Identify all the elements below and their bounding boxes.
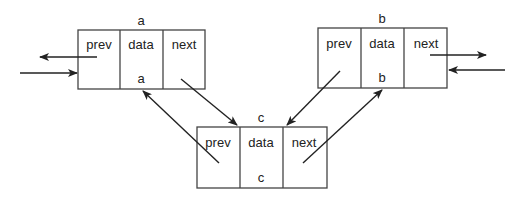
node-b-prev-label: prev <box>326 36 352 51</box>
node-c: c prev data next c <box>197 110 327 188</box>
node-b-data-label: data <box>369 36 395 51</box>
node-c-name: c <box>258 110 265 125</box>
node-b-next-label: next <box>414 36 439 51</box>
node-c-value: c <box>258 170 265 185</box>
node-a-next-label: next <box>172 37 197 52</box>
node-a-data-label: data <box>128 37 154 52</box>
node-a-prev-label: prev <box>86 37 112 52</box>
node-b-name: b <box>378 11 385 26</box>
node-b-value: b <box>378 70 385 85</box>
node-c-prev-label: prev <box>205 135 231 150</box>
node-a-name: a <box>137 13 145 28</box>
node-b: b prev data next b <box>318 11 447 88</box>
arrow-b-prev-to-c <box>287 71 340 125</box>
node-c-next-label: next <box>292 135 317 150</box>
node-c-data-label: data <box>248 135 274 150</box>
node-a-value: a <box>137 71 145 86</box>
linked-list-diagram: a prev data next a b prev data next b c … <box>0 0 524 201</box>
node-a: a prev data next a <box>78 13 205 89</box>
arrow-a-next-to-c <box>181 79 237 125</box>
